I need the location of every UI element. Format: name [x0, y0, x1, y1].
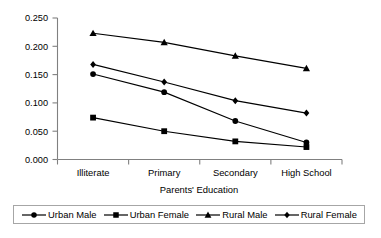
x-axis-title: Parents' Education: [160, 184, 238, 195]
square-marker: [113, 212, 119, 218]
y-tick-label: 0.250: [25, 13, 48, 23]
series-rural-male: [89, 30, 310, 72]
y-tick-label: 0.000: [25, 155, 48, 165]
legend-item-rural-male[interactable]: Rural Male: [195, 209, 267, 221]
x-tick-label: Illiterate: [77, 167, 110, 178]
diamond-marker: [284, 211, 289, 218]
legend-item-rural-female[interactable]: Rural Female: [274, 209, 357, 221]
x-tick-labels: IlliteratePrimarySecondaryHigh School: [77, 167, 332, 178]
triangle-marker: [89, 30, 96, 36]
series-line: [93, 74, 306, 142]
series-rural-female: [90, 61, 309, 117]
y-tick-label: 0.150: [25, 70, 48, 80]
triangle-legend-icon: [195, 209, 221, 221]
series-line: [93, 33, 306, 68]
square-marker: [90, 115, 96, 121]
circle-marker: [232, 118, 238, 124]
diamond-marker: [232, 97, 238, 104]
y-axis: 0.0000.0500.1000.1500.2000.250: [25, 13, 58, 165]
x-tick-label: Primary: [148, 167, 181, 178]
legend-label: Urban Male: [48, 210, 96, 219]
data-series-layer: [89, 30, 310, 150]
legend-label: Rural Female: [301, 210, 357, 219]
circle-marker: [31, 212, 37, 218]
x-axis: IlliteratePrimarySecondaryHigh School: [58, 160, 343, 179]
chart-legend: Urban MaleUrban FemaleRural MaleRural Fe…: [13, 205, 365, 224]
diamond-marker: [90, 61, 96, 68]
y-tick-label: 0.200: [25, 42, 48, 52]
diamond-marker: [304, 110, 310, 117]
legend-item-urban-female[interactable]: Urban Female: [103, 209, 189, 221]
x-tick-marks: [58, 160, 343, 165]
series-urban-female: [90, 115, 309, 150]
diamond-legend-icon: [274, 209, 300, 221]
legend-item-urban-male[interactable]: Urban Male: [21, 209, 96, 221]
y-tick-marks: [53, 18, 58, 160]
x-tick-label: High School: [281, 167, 332, 178]
circle-marker: [90, 71, 96, 77]
y-tick-label: 0.100: [25, 98, 48, 108]
y-tick-labels: 0.0000.0500.1000.1500.2000.250: [25, 13, 48, 165]
x-tick-label: Secondary: [213, 167, 258, 178]
chart-plot-area: 0.0000.0500.1000.1500.2000.250 Illiterat…: [0, 0, 381, 238]
square-legend-icon: [103, 209, 129, 221]
legend-label: Rural Male: [222, 210, 267, 219]
y-tick-label: 0.050: [25, 127, 48, 137]
line-chart: 0.0000.0500.1000.1500.2000.250 Illiterat…: [0, 0, 381, 238]
square-marker: [161, 128, 167, 134]
circle-marker: [161, 89, 167, 95]
circle-legend-icon: [21, 209, 47, 221]
diamond-marker: [161, 78, 167, 85]
legend-label: Urban Female: [130, 210, 189, 219]
square-marker: [304, 144, 310, 150]
series-line: [93, 64, 306, 113]
square-marker: [232, 138, 238, 144]
